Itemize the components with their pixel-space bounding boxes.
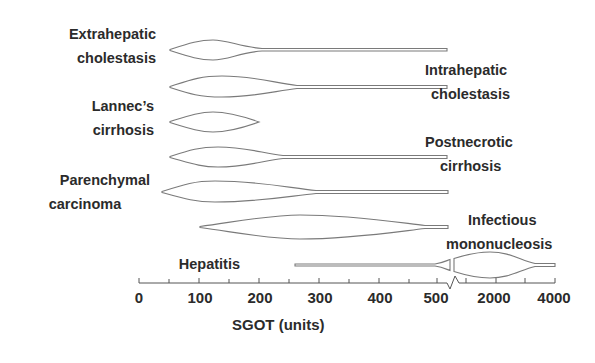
label-postnecrotic-cirrhosis: Postnecrotic cirrhosis [425,130,513,178]
label-extrahepatic-cholestasis: Extrahepatic cholestasis [20,22,156,70]
label-lannecs-cirrhosis: Lannec’s cirrhosis [20,94,154,142]
violin-parenchymal-carcinoma [162,181,448,202]
label-line: cholestasis [425,82,510,106]
x-tick-100: 100 [187,289,212,306]
label-line: Intrahepatic [425,58,510,82]
label-line: carcinoma [10,192,150,216]
violin-extrahepatic-cholestasis [170,40,447,60]
label-infectious-mononucleosis: Infectious mononucleosis [446,208,552,256]
label-parenchymal-carcinoma: Parenchymal carcinoma [10,168,150,216]
label-hepatitis: Hepatitis [160,252,240,276]
label-line: Parenchymal [10,168,150,192]
x-tick-400: 400 [367,289,392,306]
label-line: cirrhosis [425,154,513,178]
x-tick-2000: 2000 [477,289,510,306]
violin-intrahepatic-cholestasis [170,76,447,97]
violin-hepatitis-low [295,260,450,271]
label-line: cirrhosis [20,118,154,142]
x-tick-200: 200 [247,289,272,306]
label-line: Lannec’s [20,94,154,118]
label-line: cholestasis [20,46,156,70]
label-line: Extrahepatic [20,22,156,46]
label-intrahepatic-cholestasis: Intrahepatic cholestasis [425,58,510,106]
x-tick-300: 300 [307,289,332,306]
x-axis-title: SGOT (units) [232,316,325,333]
label-line: Infectious [446,208,552,232]
x-tick-4000: 4000 [537,289,570,306]
x-tick-0: 0 [135,289,143,306]
label-line: Postnecrotic [425,130,513,154]
label-line: mononucleosis [446,232,552,256]
violin-lannecs-cirrhosis [170,112,259,132]
violin-infectious-mononucleosis [200,215,448,239]
x-tick-500: 500 [423,289,448,306]
violin-postnecrotic-cirrhosis [170,147,447,167]
